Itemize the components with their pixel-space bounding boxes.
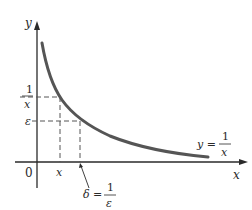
- curve-y-equals-one-over-x: [42, 43, 208, 157]
- x-axis: [15, 159, 248, 165]
- curve-label-numerator: 1: [222, 130, 229, 143]
- y-axis-label: y: [24, 16, 32, 30]
- tick-epsilon: ε: [25, 115, 31, 128]
- delta-pointer: [81, 166, 89, 188]
- y-axis-arrow-icon: [34, 21, 40, 30]
- diagram-canvas: y x 0 1 x ε x δ = 1 ε y = 1 x: [0, 0, 252, 210]
- origin-label: 0: [25, 166, 33, 180]
- x-axis-arrow-icon: [239, 159, 248, 165]
- delta-label-denominator: ε: [106, 197, 112, 210]
- curve-label-denominator: x: [221, 146, 228, 159]
- delta-label-lhs: δ =: [83, 188, 102, 201]
- curve-label-lhs: y =: [196, 138, 216, 151]
- tick-one-over-x-numerator: 1: [26, 83, 33, 96]
- delta-label-numerator: 1: [107, 181, 114, 194]
- y-axis: [34, 21, 40, 188]
- tick-one-over-x-denominator: x: [24, 98, 31, 111]
- delta-pointer-arrow-icon: [79, 163, 83, 168]
- tick-x: x: [56, 166, 63, 179]
- x-axis-label: x: [233, 168, 240, 182]
